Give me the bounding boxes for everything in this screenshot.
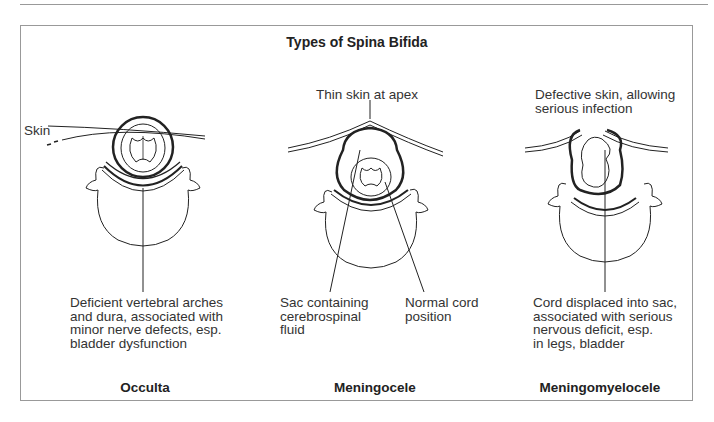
occulta-caption: Occulta <box>70 380 220 395</box>
spina-bifida-illustrations <box>0 0 714 422</box>
meningocele-caption: Meningocele <box>300 380 450 395</box>
normal-cord-label: Normal cord position <box>405 296 479 323</box>
meningomyelocele-description: Cord displaced into sac, associated with… <box>533 296 677 350</box>
occulta-illustration <box>47 117 205 292</box>
meningomyelocele-illustration <box>525 130 668 292</box>
meningomyelocele-caption: Meningomyelocele <box>530 380 670 395</box>
thin-skin-label: Thin skin at apex <box>316 88 418 102</box>
occulta-description: Deficient vertebral arches and dura, ass… <box>70 296 223 350</box>
meningocele-illustration <box>288 100 443 292</box>
skin-label: Skin <box>24 124 50 138</box>
defective-skin-label: Defective skin, allowing serious infecti… <box>535 88 675 115</box>
sac-label: Sac containing cerebrospinal fluid <box>280 296 369 337</box>
